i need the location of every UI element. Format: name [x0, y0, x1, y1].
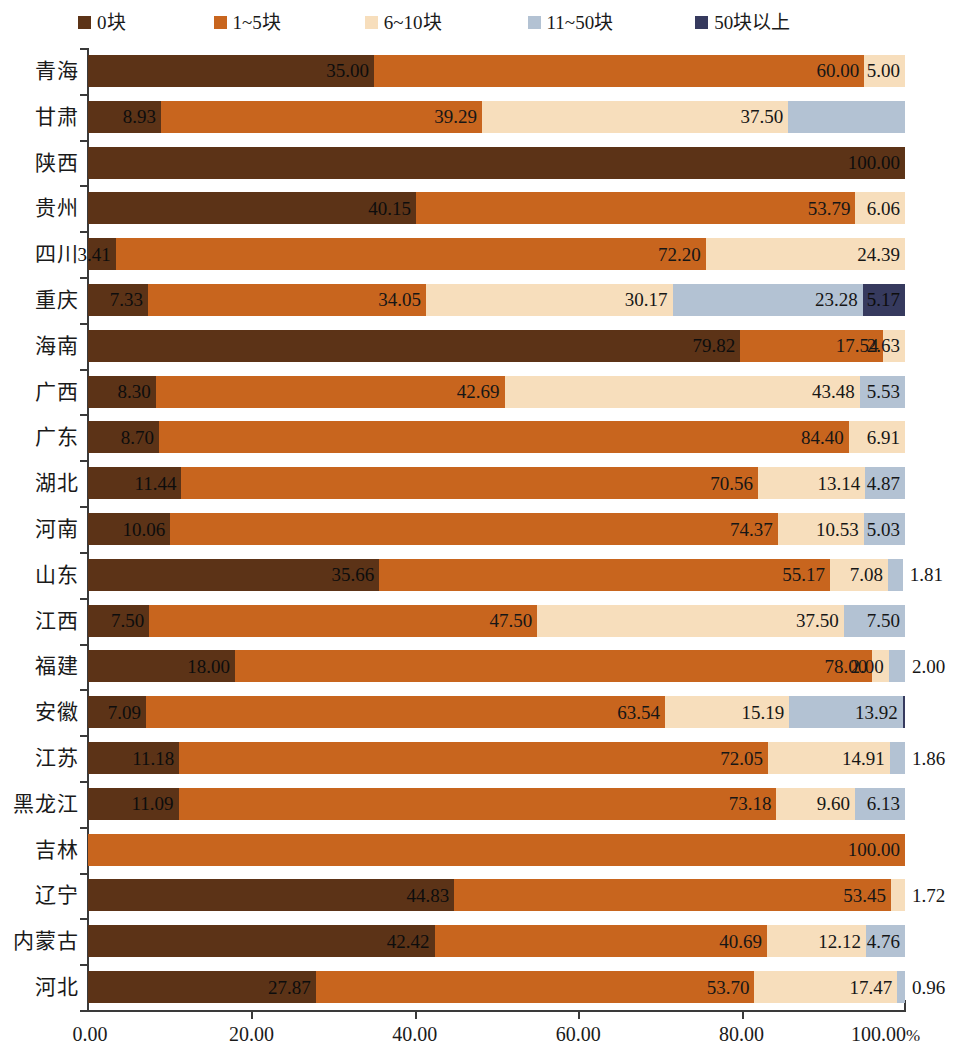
- bar-segment-0: 27.87: [88, 971, 316, 1003]
- bar-segment-2: 17.47: [754, 971, 897, 1003]
- bar-segment-3: 1.86: [890, 742, 905, 774]
- stacked-bar: 100.00: [88, 834, 905, 866]
- bar-value-label: 11.09: [132, 794, 179, 813]
- bar-segment-3: 2.00: [889, 650, 905, 682]
- bar-segment-2: 9.60: [776, 788, 854, 820]
- bar-row-label: 贵州: [35, 192, 79, 224]
- stacked-bar: 79.8217.542.63: [88, 330, 905, 362]
- bar-value-label: 27.87: [268, 978, 316, 997]
- bar-segment-2: 10.53: [778, 513, 864, 545]
- stacked-bar: 11.1872.0514.911.86: [88, 742, 905, 774]
- legend-11-50-swatch-icon: [528, 16, 541, 29]
- bar-row: 吉林100.00: [88, 834, 905, 866]
- bar-value-label: 0.96: [905, 978, 945, 997]
- stacked-bar: 7.5047.5037.507.50: [88, 605, 905, 637]
- stacked-bar: 10.0674.3710.535.03: [88, 513, 905, 545]
- bar-value-label: 24.39: [857, 245, 905, 264]
- bar-value-label: 37.50: [796, 611, 844, 630]
- bar-value-label: 35.00: [326, 61, 374, 80]
- bar-value-label: 60.00: [816, 61, 864, 80]
- bar-value-label: 2.00: [850, 657, 888, 676]
- bar-value-label: 55.17: [782, 565, 830, 584]
- bar-segment-1: 53.79: [416, 192, 855, 224]
- bar-value-label: 72.20: [658, 245, 706, 264]
- bar-segment-1: 60.00: [374, 55, 864, 87]
- x-axis-label-0: 0.00: [73, 1023, 108, 1045]
- bar-segment-1: 63.54: [146, 696, 665, 728]
- x-tick-4: [742, 1010, 744, 1019]
- bar-row-label: 重庆: [35, 284, 79, 316]
- legend-1-5-label: 1~5块: [233, 13, 281, 32]
- bar-segment-0: 3.41: [88, 238, 116, 270]
- bar-value-label: 72.05: [720, 749, 768, 768]
- bar-segment-2: 14.91: [768, 742, 890, 774]
- bar-row: 贵州40.1553.796.06: [88, 192, 905, 224]
- bar-value-label: 10.53: [816, 520, 864, 539]
- bar-row-label: 内蒙古: [13, 925, 79, 957]
- stacked-bar: 44.8353.451.72: [88, 879, 905, 911]
- bar-segment-0: 44.83: [88, 879, 454, 911]
- bar-segment-3: 0.96: [897, 971, 905, 1003]
- bar-value-label: 23.28: [815, 290, 863, 309]
- legend-item-3: 11~50块: [528, 13, 614, 32]
- bar-row-label: 河北: [35, 971, 79, 1003]
- x-axis-label-1: 20.00: [229, 1023, 274, 1045]
- bar-value-label: 34.05: [378, 290, 426, 309]
- legend-item-2: 6~10块: [365, 13, 442, 32]
- stacked-bar-chart: 0块1~5块6~10块11~50块50块以上 青海35.0060.005.00甘…: [0, 0, 954, 1057]
- bar-value-label: 100.00: [848, 840, 905, 859]
- y-tick-17: [80, 827, 88, 829]
- bar-row: 河北27.8753.7017.470.96: [88, 971, 905, 1003]
- legend-0-label: 0块: [97, 13, 126, 32]
- bar-value-label: 42.42: [387, 932, 435, 951]
- bar-segment-0: 7.09: [88, 696, 146, 728]
- bar-segment-1: 72.05: [179, 742, 768, 774]
- bar-segment-2: 30.17: [426, 284, 672, 316]
- bar-value-label: 44.83: [407, 886, 455, 905]
- stacked-bar: 35.0060.005.00: [88, 55, 905, 87]
- bar-value-label: 7.50: [867, 611, 905, 630]
- bar-value-label: 5.53: [867, 382, 905, 401]
- bar-row: 黑龙江11.0973.189.606.13: [88, 788, 905, 820]
- bar-segment-2: 5.00: [864, 55, 905, 87]
- bar-row: 山东35.6655.177.081.81: [88, 559, 905, 591]
- bar-segment-0: 18.00: [88, 650, 235, 682]
- bar-row: 湖北11.4470.5613.144.87: [88, 467, 905, 499]
- bar-segment-4: [903, 696, 905, 728]
- stacked-bar: 3.4172.2024.39: [88, 238, 905, 270]
- bar-segment-0: 8.93: [88, 101, 161, 133]
- x-axis-tick-value: 60.00: [556, 1023, 601, 1045]
- y-tick-20: [80, 964, 88, 966]
- legend-item-1: 1~5块: [214, 13, 281, 32]
- bar-value-label: 40.15: [368, 199, 416, 218]
- x-axis-label-2: 40.00: [392, 1023, 437, 1045]
- bar-row-label: 黑龙江: [13, 788, 79, 820]
- bar-value-label: 100.00: [848, 153, 905, 172]
- x-tick-1: [251, 1010, 253, 1019]
- bar-row-label: 安徽: [35, 696, 79, 728]
- bar-row: 江苏11.1872.0514.911.86: [88, 742, 905, 774]
- legend-50-plus-label: 50块以上: [714, 13, 790, 32]
- bar-row-label: 江苏: [35, 742, 79, 774]
- bar-row-label: 广西: [35, 376, 79, 408]
- legend-1-5-swatch-icon: [214, 16, 227, 29]
- bar-value-label: 5.03: [867, 520, 905, 539]
- bar-value-label: 5.17: [867, 290, 905, 309]
- bar-segment-0: 7.33: [88, 284, 148, 316]
- bar-value-label: 11.18: [132, 749, 179, 768]
- x-axis-tick-value: 100.00: [851, 1023, 906, 1045]
- bar-segment-2: 6.06: [855, 192, 905, 224]
- y-tick-1: [80, 94, 88, 96]
- y-tick-2: [80, 140, 88, 142]
- bar-value-label: 8.70: [121, 428, 159, 447]
- bar-segment-0: 11.44: [88, 467, 181, 499]
- bar-row-label: 广东: [35, 421, 79, 453]
- bar-value-label: 7.08: [850, 565, 888, 584]
- legend-11-50-label: 11~50块: [547, 13, 614, 32]
- stacked-bar: 100.00: [88, 147, 905, 179]
- bar-segment-2: 37.50: [482, 101, 788, 133]
- bar-segment-2: 15.19: [665, 696, 789, 728]
- bar-row: 广西8.3042.6943.485.53: [88, 376, 905, 408]
- x-axis-line: [87, 1010, 906, 1012]
- x-axis-label-5: 100.00%: [851, 1023, 920, 1047]
